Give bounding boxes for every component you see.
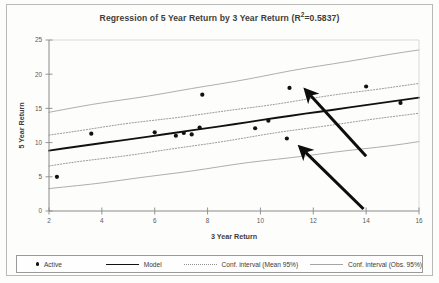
x-tick-label: 14	[363, 217, 371, 224]
y-axis-title: 5 Year Return	[17, 102, 26, 148]
x-tick-label: 12	[310, 217, 318, 224]
x-tick-label: 4	[100, 217, 104, 224]
arrow-upper	[311, 95, 367, 156]
model-regression-line	[49, 98, 419, 151]
legend-label-conf-obs: Conf. interval (Obs. 95%)	[348, 261, 422, 268]
x-axis-title: 3 Year Return	[211, 232, 257, 241]
x-tick-label: 8	[206, 217, 210, 224]
y-tick-label: 15	[35, 105, 43, 112]
legend-item-model[interactable]: Model	[106, 261, 162, 268]
legend-label-active: Active	[44, 261, 62, 268]
axis-labels: 05101520252468101214163 Year Return5 Yea…	[17, 36, 423, 241]
chart-legend: Active Model Conf. interval (Mean 95%) C…	[16, 255, 423, 273]
y-tick-label: 20	[35, 71, 43, 78]
y-tick-label: 25	[35, 36, 43, 43]
legend-label-conf-mean: Conf. interval (Mean 95%)	[222, 261, 299, 268]
y-tick-label: 10	[35, 139, 43, 146]
legend-dotted-line-icon	[184, 264, 217, 265]
legend-item-conf-mean[interactable]: Conf. interval (Mean 95%)	[184, 261, 299, 268]
legend-label-model: Model	[144, 261, 162, 268]
y-tick-label: 0	[38, 207, 42, 214]
active-data-points	[55, 84, 403, 178]
x-tick-label: 10	[257, 217, 265, 224]
x-tick-label: 2	[47, 217, 51, 224]
legend-item-active[interactable]: Active	[36, 261, 62, 268]
legend-item-conf-obs[interactable]: Conf. interval (Obs. 95%)	[310, 261, 422, 268]
x-tick-label: 6	[153, 217, 157, 224]
y-tick-label: 5	[38, 173, 42, 180]
chart-figure: Regression of 5 Year Return by 3 Year Re…	[0, 0, 439, 283]
legend-thin-line-icon	[310, 264, 343, 265]
plot-area: 05101520252468101214163 Year Return5 Yea…	[0, 0, 439, 283]
legend-solid-line-icon	[106, 264, 139, 265]
arrow-lower	[305, 152, 363, 209]
x-tick-label: 16	[415, 217, 423, 224]
conf-interval-obs-band	[49, 50, 419, 189]
legend-dot-icon	[36, 262, 39, 265]
